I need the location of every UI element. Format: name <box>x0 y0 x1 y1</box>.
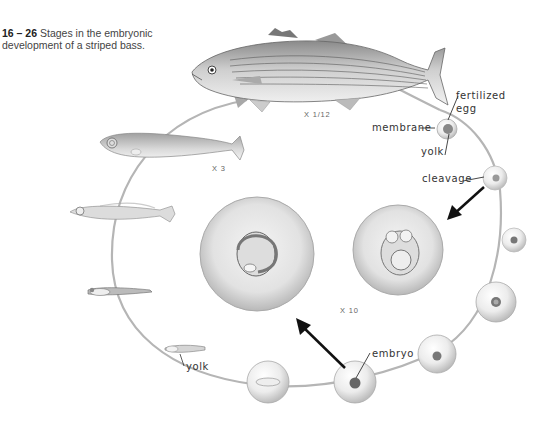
egg-embryo <box>334 353 376 403</box>
egg-stage-4 <box>476 282 516 322</box>
life-cycle-diagram <box>0 0 550 430</box>
label-yolk-egg: yolk <box>421 146 444 157</box>
label-egg: egg <box>456 103 477 114</box>
egg-stage-3 <box>502 228 526 252</box>
enlarged-egg-cleavage <box>353 205 443 295</box>
label-cleavage: cleavage <box>422 173 472 184</box>
egg-stage-5 <box>418 335 456 373</box>
larva-stage <box>100 133 244 160</box>
adult-striped-bass <box>192 28 448 112</box>
label-yolk-larva: yolk <box>186 361 209 372</box>
label-embryo: embryo <box>372 348 414 359</box>
early-larva-stage <box>70 203 175 222</box>
scale-larva: X 3 <box>212 164 226 173</box>
scale-adult: X 1/12 <box>304 110 330 119</box>
arrow-cleavage-to-enlarged <box>447 187 484 220</box>
egg-hatching <box>247 361 289 403</box>
scale-enlarged-eggs: X 10 <box>340 306 359 315</box>
label-membrane: membrane <box>372 122 432 133</box>
arrow-embryo-to-enlarged <box>296 318 345 368</box>
enlarged-egg-embryo <box>200 197 314 311</box>
label-fertilized: fertilized <box>456 90 506 101</box>
yolk-sac-larva-stage <box>88 288 152 296</box>
